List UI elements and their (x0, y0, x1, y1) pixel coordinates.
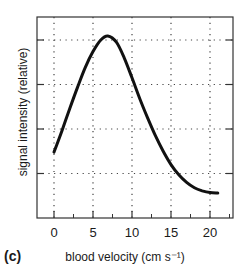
x-tick-label: 0 (50, 225, 57, 240)
x-tick-labels: 05101520 (50, 225, 217, 240)
chart: 05101520 blood velocity (cm s⁻¹) signal … (0, 0, 248, 277)
data-line (54, 36, 218, 193)
x-tick-label: 15 (164, 225, 178, 240)
x-tick-label: 5 (89, 225, 96, 240)
x-tick-label: 10 (125, 225, 139, 240)
x-tick-label: 20 (203, 225, 217, 240)
y-axis-label: signal intensity (relative) (16, 48, 30, 177)
panel-label: (c) (4, 248, 21, 264)
x-axis-label: blood velocity (cm s⁻¹) (65, 250, 184, 264)
